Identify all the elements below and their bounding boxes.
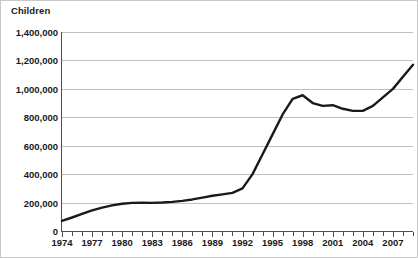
y-axis-tick-label: 1,000,000 [2,83,58,94]
y-axis-tick-label: 1,400,000 [2,27,58,38]
x-axis-tick-label: 1983 [142,237,163,248]
x-axis-tick-label: 1986 [172,237,193,248]
x-axis-tick-labels: 1974197719801983198619891992199519982001… [1,237,418,255]
y-axis-tick-label: 0 [2,226,58,237]
x-axis-tick-mark [192,232,193,236]
x-axis-tick-label: 1992 [232,237,253,248]
x-axis-tick-mark [232,232,233,236]
x-axis-tick-mark [253,232,254,236]
x-axis-tick-mark [313,232,314,236]
x-axis-tick-label: 2004 [352,237,373,248]
y-axis-tick-label: 1,200,000 [2,55,58,66]
x-axis-tick-label: 1995 [262,237,283,248]
x-axis-tick-mark [293,232,294,236]
x-axis-tick-label: 1980 [112,237,133,248]
x-axis-tick-label: 1977 [82,237,103,248]
x-axis-tick-label: 1998 [292,237,313,248]
x-axis-tick-label: 2001 [322,237,343,248]
x-axis-tick-mark [172,232,173,236]
y-axis-tick-labels: 0200,000400,000600,000800,0001,000,0001,… [1,1,58,258]
x-axis-tick-label: 1989 [202,237,223,248]
y-axis-tick-label: 800,000 [2,112,58,123]
x-axis-tick-mark [343,232,344,236]
x-axis-tick-mark [222,232,223,236]
x-axis-tick-mark [112,232,113,236]
x-axis-tick-mark [202,232,203,236]
x-axis-tick-mark [353,232,354,236]
x-axis-tick-mark [82,232,83,236]
x-axis-tick-mark [102,232,103,236]
x-axis-tick-mark [142,232,143,236]
series-line [62,32,413,231]
y-axis-tick-label: 400,000 [2,169,58,180]
chart-container: Children 0200,000400,000600,000800,0001,… [0,0,418,258]
x-axis-tick-mark [263,232,264,236]
x-axis-tick-mark [373,232,374,236]
x-axis-tick-mark [413,232,414,236]
x-axis-tick-mark [383,232,384,236]
x-axis-tick-mark [283,232,284,236]
series-polyline [62,65,413,221]
x-axis-tick-label: 1974 [51,237,72,248]
y-axis-tick-label: 200,000 [2,197,58,208]
x-axis-tick-mark [132,232,133,236]
x-axis-tick-label: 2007 [382,237,403,248]
x-axis-tick-mark [72,232,73,236]
x-axis-tick-mark [162,232,163,236]
y-axis-tick-label: 600,000 [2,140,58,151]
x-axis-tick-mark [403,232,404,236]
x-axis-tick-mark [323,232,324,236]
